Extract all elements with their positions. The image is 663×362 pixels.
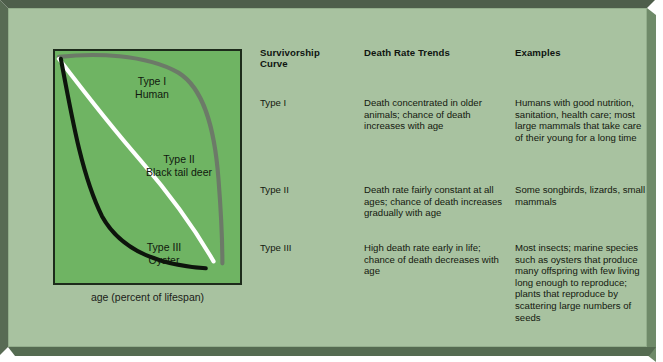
curve-label-type-1-line2: Human [117, 88, 187, 101]
table-row-1-trend: Death concentrated in older animals; cha… [364, 97, 508, 132]
table-row-2-trend: Death rate fairly constant at all ages; … [364, 184, 508, 219]
curve-label-type-2-line1: Type II [129, 153, 229, 166]
survivorship-chart: number of survivors (logarithm) Type I H… [37, 41, 247, 309]
plot-area: Type I Human Type II Black tail deer Typ… [53, 49, 242, 285]
table-row-1-example: Humans with good nutrition, sanitation, … [515, 97, 650, 143]
table-row-3-example: Most insects; marine species such as oys… [515, 242, 650, 323]
curve-label-type-1-line1: Type I [117, 75, 187, 88]
curve-label-type-3-line2: Oyster [125, 254, 203, 267]
curve-label-type-3-line1: Type III [125, 241, 203, 254]
curve-label-type-3: Type III Oyster [125, 241, 203, 266]
curve-label-type-2: Type II Black tail deer [129, 153, 229, 178]
column-header-examples: Examples [515, 47, 645, 58]
column-header-curve-line1: Survivorship [260, 47, 320, 58]
curve-label-type-2-line2: Black tail deer [129, 166, 229, 179]
column-header-death-rate-trends: Death Rate Trends [364, 47, 504, 58]
figure-root: number of survivors (logarithm) Type I H… [0, 0, 663, 362]
survivorship-table: Survivorship Curve Death Rate Trends Exa… [260, 39, 650, 349]
plaque-bevel-top [0, 0, 655, 8]
plaque-bevel-left [0, 0, 8, 355]
table-row-1-type: Type I [260, 97, 360, 109]
curve-label-type-1: Type I Human [117, 75, 187, 100]
table-row-2-type: Type II [260, 184, 360, 196]
table-row-3-trend: High death rate early in life; chance of… [364, 242, 508, 277]
figure-panel: number of survivors (logarithm) Type I H… [8, 8, 647, 347]
column-header-survivorship-curve: Survivorship Curve [260, 47, 356, 69]
x-axis-label: age (percent of lifespan) [53, 291, 242, 303]
column-header-curve-line2: Curve [260, 58, 288, 69]
table-row-3-type: Type III [260, 242, 360, 254]
table-row-2-example: Some songbirds, lizards, small mammals [515, 184, 650, 207]
